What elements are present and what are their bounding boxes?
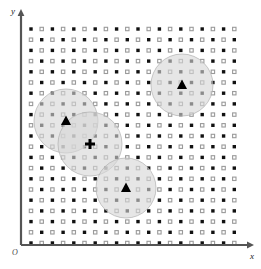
- grid-point-hollow: [72, 188, 75, 191]
- grid-point-hollow: [211, 113, 214, 116]
- y-axis-arrowhead: [18, 9, 25, 16]
- grid-point-hollow: [222, 188, 225, 191]
- grid-point-hollow: [126, 27, 129, 30]
- grid-point-filled: [104, 231, 107, 234]
- grid-point-filled: [115, 49, 118, 52]
- grid-point-filled: [158, 134, 161, 137]
- grid-point-filled: [233, 38, 236, 41]
- grid-point-hollow: [211, 134, 214, 137]
- grid-point-hollow: [40, 199, 43, 202]
- grid-point-filled: [211, 145, 214, 148]
- grid-point-hollow: [147, 113, 150, 116]
- grid-point-filled: [126, 102, 129, 105]
- grid-point-filled: [29, 113, 32, 116]
- grid-point-filled: [222, 70, 225, 73]
- grid-point-hollow: [51, 81, 54, 84]
- grid-point-filled: [115, 27, 118, 30]
- grid-point-hollow: [222, 231, 225, 234]
- grid-point-filled: [222, 113, 225, 116]
- grid-point-filled: [201, 156, 204, 159]
- grid-point-hollow: [190, 220, 193, 223]
- grid-point-filled: [147, 102, 150, 105]
- grid-point-filled: [61, 166, 64, 169]
- grid-point-filled: [211, 102, 214, 105]
- grid-point-hollow: [168, 199, 171, 202]
- grid-point-filled: [168, 166, 171, 169]
- grid-point-hollow: [115, 59, 118, 62]
- grid-point-filled: [94, 177, 97, 180]
- grid-point-hollow: [201, 209, 204, 212]
- grid-point-filled: [158, 113, 161, 116]
- grid-point-hollow: [233, 49, 236, 52]
- grid-point-filled: [94, 199, 97, 202]
- x-axis-label: x: [249, 251, 254, 261]
- grid-point-hollow: [51, 38, 54, 41]
- grid-point-filled: [104, 38, 107, 41]
- grid-point-filled: [115, 113, 118, 116]
- grid-point-hollow: [190, 199, 193, 202]
- grid-point-hollow: [126, 70, 129, 73]
- grid-point-filled: [40, 231, 43, 234]
- grid-point-filled: [158, 27, 161, 30]
- grid-point-hollow: [61, 49, 64, 52]
- grid-point-hollow: [158, 38, 161, 41]
- grid-point-filled: [233, 124, 236, 127]
- grid-point-filled: [222, 199, 225, 202]
- grid-point-filled: [168, 188, 171, 191]
- grid-point-filled: [83, 209, 86, 212]
- grid-point-hollow: [136, 124, 139, 127]
- grid-point-filled: [83, 38, 86, 41]
- grid-point-hollow: [40, 27, 43, 30]
- grid-point-filled: [51, 49, 54, 52]
- grid-point-hollow: [94, 231, 97, 234]
- grid-point-filled: [158, 49, 161, 52]
- grid-point-filled: [190, 124, 193, 127]
- grid-point-hollow: [115, 81, 118, 84]
- scatter-plot-figure: y x O: [0, 0, 261, 269]
- grid-point-hollow: [115, 102, 118, 105]
- grid-point-filled: [51, 156, 54, 159]
- grid-point-hollow: [94, 59, 97, 62]
- grid-point-filled: [222, 177, 225, 180]
- grid-point-hollow: [104, 70, 107, 73]
- x-axis-arrowhead: [247, 242, 254, 249]
- grid-point-hollow: [126, 113, 129, 116]
- grid-point-hollow: [61, 177, 64, 180]
- grid-point-filled: [179, 27, 182, 30]
- grid-point-hollow: [40, 220, 43, 223]
- grid-point-hollow: [179, 38, 182, 41]
- grid-point-filled: [147, 145, 150, 148]
- grid-point-hollow: [158, 124, 161, 127]
- grid-point-filled: [40, 38, 43, 41]
- grid-point-filled: [136, 49, 139, 52]
- grid-point-hollow: [104, 27, 107, 30]
- grid-point-filled: [61, 81, 64, 84]
- grid-point-filled: [72, 199, 75, 202]
- grid-point-filled: [201, 199, 204, 202]
- grid-point-hollow: [72, 81, 75, 84]
- grid-point-hollow: [211, 177, 214, 180]
- grid-point-hollow: [83, 220, 86, 223]
- grid-point-hollow: [211, 199, 214, 202]
- grid-point-hollow: [29, 145, 32, 148]
- grid-point-hollow: [222, 145, 225, 148]
- grid-point-filled: [83, 188, 86, 191]
- grid-point-hollow: [51, 231, 54, 234]
- grid-point-hollow: [222, 81, 225, 84]
- grid-point-hollow: [201, 188, 204, 191]
- grid-point-filled: [94, 27, 97, 30]
- grid-point-hollow: [168, 220, 171, 223]
- grid-point-filled: [136, 70, 139, 73]
- grid-point-filled: [136, 220, 139, 223]
- grid-point-filled: [147, 59, 150, 62]
- grid-point-filled: [136, 113, 139, 116]
- grid-point-filled: [136, 134, 139, 137]
- grid-point-filled: [72, 49, 75, 52]
- grid-point-hollow: [136, 102, 139, 105]
- grid-point-filled: [29, 49, 32, 52]
- grid-point-filled: [29, 156, 32, 159]
- grid-point-filled: [179, 49, 182, 52]
- grid-point-hollow: [179, 231, 182, 234]
- grid-point-filled: [147, 231, 150, 234]
- grid-point-filled: [211, 188, 214, 191]
